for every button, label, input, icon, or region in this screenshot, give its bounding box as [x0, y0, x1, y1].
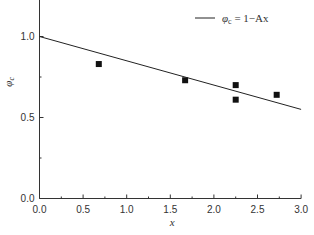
x-tick-label: 0.5 [76, 204, 90, 215]
x-tick-label: 1.0 [120, 204, 134, 215]
x-tick-label: 0.0 [33, 204, 47, 215]
y-tick-label: 1.0 [21, 31, 35, 42]
data-point [233, 82, 239, 88]
y-tick-label: 0.0 [21, 193, 35, 204]
chart: 0.00.51.01.52.02.53.00.00.51.0xφcφc = 1−… [0, 0, 314, 235]
data-point [96, 61, 102, 67]
data-point [274, 92, 280, 98]
x-tick-label: 3.0 [294, 204, 308, 215]
x-tick-label: 1.5 [163, 204, 177, 215]
y-tick-label: 0.5 [21, 112, 35, 123]
fit-line [40, 37, 302, 110]
x-tick-label: 2.0 [207, 204, 221, 215]
legend-label: φc = 1−Ax [222, 12, 269, 26]
x-axis-title: x [169, 216, 175, 228]
y-axis-title: φc [2, 77, 16, 87]
data-point [233, 97, 239, 103]
x-tick-label: 2.5 [251, 204, 265, 215]
